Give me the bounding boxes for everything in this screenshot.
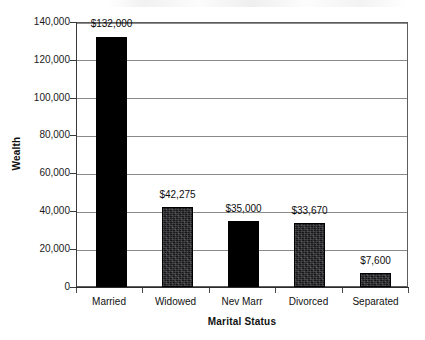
y-tick-60000 [70, 173, 76, 174]
x-tick-label-widowed: Widowed [145, 296, 206, 308]
y-tick-label-60000: 60,000 [14, 168, 70, 178]
bar-value-label-separated: $7,600 [347, 255, 404, 266]
y-tick-label-40000: 40,000 [14, 206, 70, 216]
y-tick-120000 [70, 60, 76, 61]
x-axis-title: Marital Status [76, 316, 408, 327]
x-tick-label-separated: Separated [345, 296, 406, 308]
y-tick-40000 [70, 211, 76, 212]
x-tick-4 [342, 288, 343, 293]
y-tick-label-120000: 120,000 [14, 55, 70, 65]
bar-value-label-divorced: $33,670 [280, 205, 339, 216]
x-tick-label-divorced: Divorced [278, 296, 339, 308]
bar-married [96, 37, 127, 287]
bar-nev-marr [228, 221, 259, 287]
bar-value-label-widowed: $42,275 [148, 189, 207, 200]
y-tick-80000 [70, 135, 76, 136]
bar-chart: 140,000 120,000 100,000 80,000 60,000 40… [0, 0, 425, 340]
y-tick-100000 [70, 98, 76, 99]
x-tick-1 [142, 288, 143, 293]
bar-divorced [294, 223, 325, 287]
y-tick-label-100000: 100,000 [14, 93, 70, 103]
y-tick-label-20000: 20,000 [14, 244, 70, 254]
scan-artifact-smudge [108, 0, 408, 7]
y-tick-label-140000: 140,000 [14, 17, 70, 27]
y-axis-title: Wealth [11, 124, 22, 184]
x-tick-3 [275, 288, 276, 293]
x-tick-label-married: Married [79, 296, 139, 308]
x-tick-5 [408, 288, 409, 293]
y-tick-140000 [70, 22, 76, 23]
bar-separated [360, 273, 391, 287]
y-axis-line [76, 22, 77, 288]
x-tick-0 [76, 288, 77, 293]
y-tick-label-0: 0 [14, 282, 70, 292]
y-tick-20000 [70, 249, 76, 250]
bar-value-label-married: $132,000 [81, 18, 142, 29]
x-axis-line [76, 287, 409, 288]
bar-widowed [162, 207, 193, 287]
x-tick-2 [209, 288, 210, 293]
bar-value-label-nev-marr: $35,000 [214, 203, 273, 214]
x-tick-label-nev-marr: Nev Marr [212, 296, 272, 308]
y-tick-label-80000: 80,000 [14, 130, 70, 140]
